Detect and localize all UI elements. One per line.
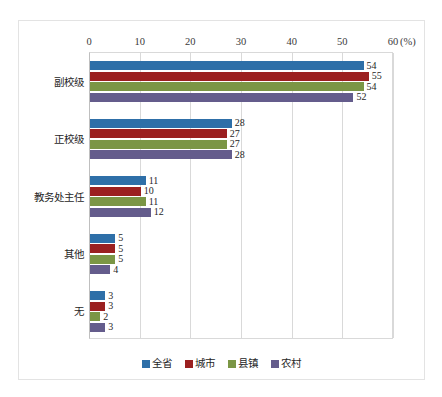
bar-row: 11 <box>90 197 392 206</box>
bar-城市-教务处主任[interactable] <box>90 187 141 196</box>
legend-item-城市[interactable]: 城市 <box>185 357 215 370</box>
bar-row: 3 <box>90 302 392 311</box>
bar-row: 28 <box>90 150 392 159</box>
legend-label: 城市 <box>195 357 215 370</box>
bar-row: 27 <box>90 140 392 149</box>
bar-row: 5 <box>90 255 392 264</box>
x-axis-tick-labels: 0102030405060 <box>89 35 393 49</box>
bar-row: 54 <box>90 82 392 91</box>
bar-row: 4 <box>90 265 392 274</box>
bar-row: 11 <box>90 176 392 185</box>
bar-农村-教务处主任[interactable] <box>90 208 151 217</box>
chart-legend: 全省城市县镇农村 <box>19 357 424 370</box>
bar-row: 3 <box>90 323 392 332</box>
bar-县镇-其他[interactable] <box>90 255 115 264</box>
bar-全省-无[interactable] <box>90 291 105 300</box>
category-group: 其他5554 <box>90 234 392 275</box>
bar-城市-无[interactable] <box>90 302 105 311</box>
x-axis-tick-10: 10 <box>134 35 145 48</box>
bar-row: 54 <box>90 61 392 70</box>
category-label: 正校级 <box>54 133 84 146</box>
x-axis-unit-label: (%) <box>400 35 416 48</box>
bar-row: 2 <box>90 312 392 321</box>
category-label: 副校级 <box>54 75 84 88</box>
bar-row: 5 <box>90 244 392 253</box>
bar-row: 5 <box>90 234 392 243</box>
gridline-60 <box>393 53 394 338</box>
legend-item-县镇[interactable]: 县镇 <box>228 357 258 370</box>
bar-row: 28 <box>90 119 392 128</box>
bar-row: 10 <box>90 187 392 196</box>
bar-value-label: 3 <box>108 321 113 333</box>
plot-area: 副校级54555452正校级28272728教务处主任11101112其他555… <box>89 52 393 339</box>
bar-县镇-教务处主任[interactable] <box>90 197 146 206</box>
bar-全省-正校级[interactable] <box>90 119 232 128</box>
bar-县镇-副校级[interactable] <box>90 82 364 91</box>
bar-row: 3 <box>90 291 392 300</box>
legend-swatch-icon <box>185 360 193 368</box>
category-label: 无 <box>74 305 84 318</box>
legend-label: 农村 <box>281 357 301 370</box>
legend-label: 全省 <box>152 357 172 370</box>
category-group: 教务处主任11101112 <box>90 176 392 217</box>
bar-row: 12 <box>90 208 392 217</box>
bar-全省-教务处主任[interactable] <box>90 176 146 185</box>
bar-城市-副校级[interactable] <box>90 72 369 81</box>
bar-value-label: 5 <box>118 253 123 265</box>
legend-item-全省[interactable]: 全省 <box>142 357 172 370</box>
bar-农村-副校级[interactable] <box>90 93 353 102</box>
bar-value-label: 52 <box>356 91 366 103</box>
bar-城市-其他[interactable] <box>90 244 115 253</box>
bar-value-label: 12 <box>154 206 164 218</box>
chart-container: 0102030405060 (%) 副校级54555452正校级28272728… <box>18 20 425 380</box>
bar-row: 55 <box>90 72 392 81</box>
bar-城市-正校级[interactable] <box>90 129 227 138</box>
category-group: 正校级28272728 <box>90 119 392 160</box>
bar-农村-正校级[interactable] <box>90 150 232 159</box>
category-group: 副校级54555452 <box>90 61 392 102</box>
category-label: 教务处主任 <box>34 190 84 203</box>
legend-swatch-icon <box>271 360 279 368</box>
bar-row: 27 <box>90 129 392 138</box>
category-label: 其他 <box>64 247 84 260</box>
x-axis-tick-30: 30 <box>236 35 247 48</box>
bar-row: 52 <box>90 93 392 102</box>
legend-swatch-icon <box>142 360 150 368</box>
bar-县镇-无[interactable] <box>90 312 100 321</box>
x-axis-tick-60: 60 <box>388 35 399 48</box>
bar-全省-副校级[interactable] <box>90 61 364 70</box>
category-group: 无3323 <box>90 291 392 332</box>
legend-swatch-icon <box>228 360 236 368</box>
bar-农村-无[interactable] <box>90 323 105 332</box>
bar-value-label: 4 <box>113 264 118 276</box>
bar-县镇-正校级[interactable] <box>90 140 227 149</box>
legend-label: 县镇 <box>238 357 258 370</box>
x-axis-tick-20: 20 <box>185 35 196 48</box>
x-axis-tick-0: 0 <box>86 35 91 48</box>
bar-value-label: 54 <box>367 81 377 93</box>
bar-value-label: 3 <box>108 300 113 312</box>
bar-value-label: 28 <box>235 149 245 161</box>
x-axis-tick-40: 40 <box>286 35 297 48</box>
legend-item-农村[interactable]: 农村 <box>271 357 301 370</box>
bar-农村-其他[interactable] <box>90 265 110 274</box>
x-axis-tick-50: 50 <box>337 35 348 48</box>
bar-全省-其他[interactable] <box>90 234 115 243</box>
